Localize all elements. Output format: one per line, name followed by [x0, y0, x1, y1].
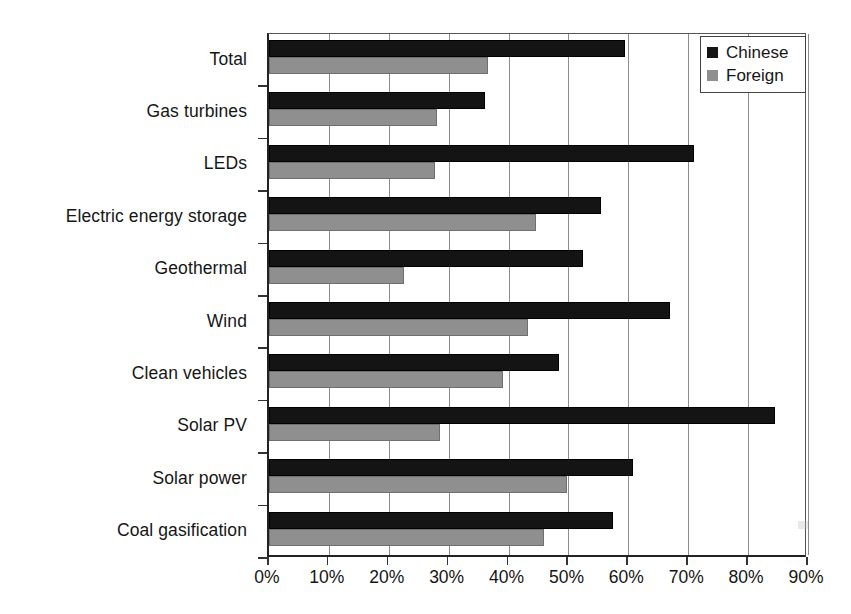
x-axis-tick-label: 50% [549, 567, 584, 588]
bar-chinese [269, 354, 559, 371]
bar-foreign [269, 162, 435, 179]
y-axis-tick [258, 505, 267, 507]
x-axis-tick [507, 557, 509, 565]
bar-chinese [269, 302, 670, 319]
x-axis-tick-label: 80% [729, 567, 764, 588]
y-axis-label-gas-turbines: Gas turbines [147, 85, 247, 137]
y-axis-label-electric-energy-storage: Electric energy storage [66, 190, 247, 242]
bar-chinese [269, 92, 485, 109]
bar-row [269, 453, 805, 505]
bar-foreign [269, 214, 536, 231]
bar-chinese [269, 512, 613, 529]
y-axis-label-total: Total [210, 33, 247, 85]
bar-chart: TotalGas turbinesLEDsElectric energy sto… [0, 0, 851, 614]
y-axis-label-geothermal: Geothermal [155, 243, 247, 295]
bar-row [269, 296, 805, 348]
y-axis-label-solar-pv: Solar PV [177, 400, 247, 452]
bar-row [269, 244, 805, 296]
x-axis-tick [806, 557, 808, 565]
bar-chinese [269, 407, 775, 424]
legend-label-chinese: Chinese [726, 43, 788, 63]
bar-row [269, 506, 805, 558]
y-axis-tick [258, 400, 267, 402]
black-square-swatch-icon [707, 47, 718, 58]
y-axis-category-labels: TotalGas turbinesLEDsElectric energy sto… [0, 33, 259, 557]
bar-row [269, 401, 805, 453]
x-axis-tick-label: 20% [369, 567, 404, 588]
y-axis-tick [258, 347, 267, 349]
y-axis-tick [258, 243, 267, 245]
x-axis-tick [267, 557, 269, 565]
bar-chinese [269, 145, 694, 162]
scan-artifact [798, 521, 808, 529]
x-axis-tick-label: 90% [788, 567, 823, 588]
legend-label-foreign: Foreign [726, 66, 784, 86]
bar-foreign [269, 57, 488, 74]
gridline [808, 34, 809, 555]
x-axis-tick [686, 557, 688, 565]
bar-foreign [269, 529, 544, 546]
y-axis-tick [258, 452, 267, 454]
bar-foreign [269, 319, 528, 336]
bar-chinese [269, 40, 625, 57]
bar-foreign [269, 109, 437, 126]
bar-foreign [269, 371, 503, 388]
chart-legend: Chinese Foreign [700, 36, 806, 93]
x-axis-tick [746, 557, 748, 565]
x-axis-tick [387, 557, 389, 565]
y-axis-label-solar-power: Solar power [153, 452, 247, 504]
bar-foreign [269, 476, 567, 493]
legend-item-chinese: Chinese [707, 41, 799, 64]
bar-row [269, 139, 805, 191]
x-axis-tick-label: 10% [309, 567, 344, 588]
y-axis-label-clean-vehicles: Clean vehicles [132, 347, 247, 399]
x-axis-tick-label: 30% [429, 567, 464, 588]
bar-row [269, 86, 805, 138]
x-axis-tick [327, 557, 329, 565]
x-axis-tick-label: 0% [254, 567, 279, 588]
y-axis-label-wind: Wind [207, 295, 247, 347]
legend-item-foreign: Foreign [707, 64, 799, 87]
x-axis-tick [566, 557, 568, 565]
y-axis-tick [258, 85, 267, 87]
bar-chinese [269, 459, 633, 476]
bar-row [269, 191, 805, 243]
y-axis-tick [258, 190, 267, 192]
x-axis-tick-label: 70% [669, 567, 704, 588]
x-axis-tick [447, 557, 449, 565]
x-axis-tick-label: 40% [489, 567, 524, 588]
y-axis-tick [258, 295, 267, 297]
gray-square-swatch-icon [707, 70, 718, 81]
bar-rows [269, 34, 805, 555]
bar-foreign [269, 424, 440, 441]
bar-chinese [269, 197, 601, 214]
bar-row [269, 348, 805, 400]
y-axis-label-coal-gasification: Coal gasification [117, 505, 247, 557]
y-axis-tick [258, 557, 267, 559]
x-axis-tick-label: 60% [609, 567, 644, 588]
y-axis-label-leds: LEDs [204, 138, 247, 190]
bar-chinese [269, 250, 583, 267]
bar-foreign [269, 267, 404, 284]
x-axis-tick [626, 557, 628, 565]
plot-area [267, 33, 806, 557]
y-axis-tick [258, 138, 267, 140]
